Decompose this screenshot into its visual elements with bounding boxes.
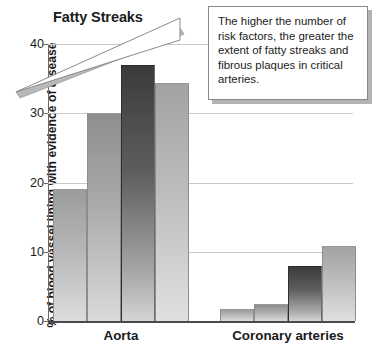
- bar-aorta-2[interactable]: [87, 113, 121, 321]
- bar-aorta-4[interactable]: [155, 83, 189, 321]
- bar-coronary-3[interactable]: [288, 266, 322, 321]
- bar-aorta-1[interactable]: [53, 189, 87, 321]
- y-tick-label-40: 40: [4, 37, 44, 51]
- y-tick-label-20: 20: [4, 176, 44, 190]
- y-tick-label-30: 30: [4, 106, 44, 120]
- bar-aorta-3[interactable]: [121, 65, 155, 321]
- category-label-coronary-arteries: Coronary arteries: [220, 328, 356, 343]
- y-axis-ticks: 40 30 20 10 0: [0, 44, 44, 321]
- bar-coronary-4[interactable]: [322, 246, 356, 321]
- chart-title: Fatty Streaks: [53, 9, 143, 25]
- bar-coronary-2[interactable]: [254, 304, 288, 321]
- y-tick-label-0: 0: [4, 314, 44, 328]
- y-tick-label-10: 10: [4, 245, 44, 259]
- callout: The higher the number of risk factors, t…: [208, 6, 368, 100]
- chart-figure: Fatty Streaks % of blood vessel lining w…: [0, 0, 377, 360]
- x-axis-line: [48, 321, 355, 323]
- callout-text: The higher the number of risk factors, t…: [218, 14, 359, 87]
- category-label-aorta: Aorta: [53, 328, 189, 343]
- callout-box: The higher the number of risk factors, t…: [208, 6, 368, 100]
- bar-coronary-1[interactable]: [220, 309, 254, 321]
